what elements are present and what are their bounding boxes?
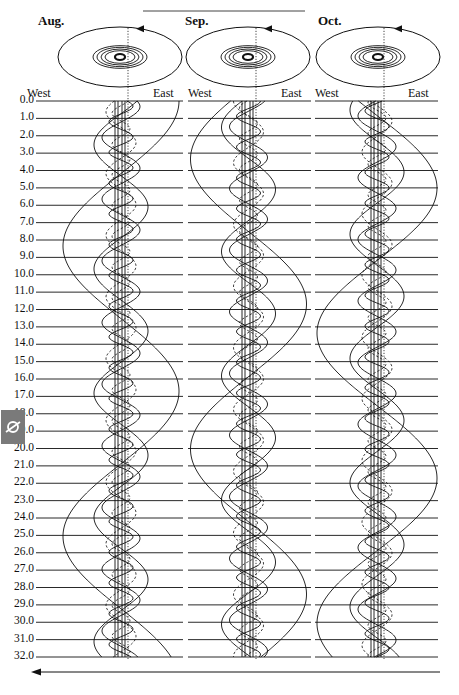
month-title: Sep. bbox=[185, 13, 208, 29]
row-label: 8.0 bbox=[0, 232, 34, 244]
side-badge[interactable] bbox=[1, 410, 25, 444]
row-label: 6.0 bbox=[0, 197, 34, 209]
row-label: 23.0 bbox=[0, 493, 34, 505]
row-label: 1.0 bbox=[0, 110, 34, 122]
row-label: 24.0 bbox=[0, 510, 34, 522]
row-label: 7.0 bbox=[0, 215, 34, 227]
row-label: 9.0 bbox=[0, 249, 34, 261]
row-label: 28.0 bbox=[0, 580, 34, 592]
row-label: 17.0 bbox=[0, 388, 34, 400]
month-title: Oct. bbox=[318, 13, 341, 29]
row-label: 31.0 bbox=[0, 632, 34, 644]
row-label: 13.0 bbox=[0, 319, 34, 331]
row-label: 16.0 bbox=[0, 371, 34, 383]
planet-ring-icon bbox=[4, 418, 22, 436]
row-label: 26.0 bbox=[0, 545, 34, 557]
row-label: 21.0 bbox=[0, 458, 34, 470]
row-label: 4.0 bbox=[0, 163, 34, 175]
row-label: 12.0 bbox=[0, 302, 34, 314]
row-label: 15.0 bbox=[0, 354, 34, 366]
row-label: 25.0 bbox=[0, 527, 34, 539]
row-label: 10.0 bbox=[0, 267, 34, 279]
row-label: 3.0 bbox=[0, 145, 34, 157]
east-label: East bbox=[408, 86, 429, 101]
west-label: West bbox=[188, 86, 212, 101]
east-label: East bbox=[281, 86, 302, 101]
orbit-diagram bbox=[0, 0, 459, 695]
row-label: 27.0 bbox=[0, 562, 34, 574]
month-title: Aug. bbox=[38, 13, 64, 29]
west-label: West bbox=[315, 86, 339, 101]
row-label: 5.0 bbox=[0, 180, 34, 192]
row-label: 2.0 bbox=[0, 128, 34, 140]
row-label: 11.0 bbox=[0, 284, 34, 296]
row-label: 14.0 bbox=[0, 336, 34, 348]
row-label: 30.0 bbox=[0, 614, 34, 626]
east-label: East bbox=[153, 86, 174, 101]
row-label: 32.0 bbox=[0, 649, 34, 661]
row-label: 29.0 bbox=[0, 597, 34, 609]
west-label: West bbox=[27, 86, 51, 101]
row-label: 22.0 bbox=[0, 475, 34, 487]
